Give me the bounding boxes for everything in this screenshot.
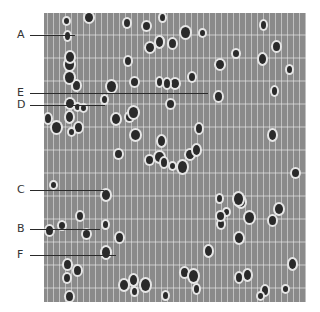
- vessel-pore: [143, 22, 150, 30]
- vessel-pore: [193, 145, 200, 155]
- vessel-pore: [233, 50, 239, 57]
- vessel-pore: [75, 123, 82, 132]
- vessel-pore: [217, 212, 224, 220]
- leader-line-c: [30, 190, 104, 191]
- vessel-pore: [59, 222, 65, 229]
- vessel-pore: [287, 66, 292, 73]
- vessel-pore: [73, 81, 80, 90]
- vessel-pore: [130, 275, 137, 285]
- vessel-pore: [146, 43, 154, 52]
- vessel-pore: [196, 124, 202, 133]
- vessel-pore: [259, 54, 266, 64]
- vessel-pore: [236, 273, 242, 282]
- vessel-pore: [112, 114, 120, 124]
- vessel-pore: [146, 156, 153, 164]
- vessel-pore: [158, 136, 165, 146]
- vessel-pore: [189, 270, 198, 282]
- vessel-pore: [161, 158, 167, 167]
- leader-line-f: [30, 255, 116, 256]
- label-f: F: [17, 249, 23, 260]
- vessel-pore: [258, 293, 263, 299]
- vessel-pore: [261, 21, 266, 29]
- vessel-pore: [103, 221, 108, 228]
- vessel-pore: [66, 99, 74, 108]
- vessel-pore: [217, 195, 222, 202]
- label-a: A: [17, 29, 25, 40]
- vessel-pore: [156, 37, 163, 47]
- vessel-pore: [45, 114, 51, 123]
- vessel-pore: [102, 190, 110, 200]
- vessel-pore: [215, 92, 222, 101]
- vessel-pore: [181, 268, 188, 277]
- vessel-pore: [224, 209, 229, 215]
- vessel-pore: [216, 60, 224, 69]
- vessel-pore: [269, 130, 276, 140]
- vessel-pore: [205, 246, 212, 256]
- vessel-pore: [218, 220, 224, 228]
- vessel-pore: [275, 204, 283, 214]
- vessel-pore: [292, 169, 299, 177]
- vessel-pore: [107, 81, 116, 92]
- vessel-pore: [66, 292, 73, 301]
- leader-line-e: [30, 93, 208, 94]
- vessel-pore: [273, 42, 280, 51]
- vessel-pore: [132, 288, 137, 295]
- vessel-pore: [245, 212, 254, 223]
- vessel-pore: [160, 14, 165, 21]
- vessel-pore: [52, 122, 61, 133]
- vessel-pore: [163, 292, 168, 299]
- vessel-pore: [65, 32, 70, 40]
- vessel-pore: [64, 260, 71, 269]
- vessel-pore: [120, 280, 128, 290]
- vessel-pore: [169, 39, 176, 48]
- vessel-pore: [131, 78, 138, 86]
- leader-line-b: [30, 229, 100, 230]
- vessel-pore: [116, 233, 123, 242]
- vessel-pore: [69, 129, 74, 135]
- vessel-pore: [85, 13, 93, 22]
- vessel-pore: [164, 79, 170, 88]
- vessel-pore: [272, 87, 277, 95]
- vessel-pore: [51, 182, 56, 188]
- leader-line-d: [30, 105, 105, 106]
- vessel-pore: [124, 19, 130, 27]
- label-c: C: [17, 184, 25, 195]
- vessel-pore: [178, 161, 187, 173]
- vessel-pore: [262, 286, 268, 295]
- vessel-pore: [157, 78, 162, 86]
- vessel-pore: [131, 130, 140, 140]
- vessel-pore: [66, 52, 74, 62]
- vessel-pore: [289, 259, 296, 269]
- label-d: D: [17, 99, 25, 110]
- wood-micrograph: [44, 13, 306, 302]
- vessel-pore: [167, 100, 174, 108]
- vessel-pore: [65, 72, 74, 83]
- vessel-pore: [129, 107, 138, 118]
- vessel-pore: [141, 279, 150, 291]
- vessel-pore: [74, 266, 81, 275]
- label-b: B: [17, 223, 25, 234]
- vessel-pore: [200, 30, 205, 36]
- vessel-pore: [64, 18, 69, 24]
- vessel-pore: [125, 57, 131, 65]
- vessel-pore: [244, 270, 251, 280]
- vessel-pore: [189, 73, 195, 81]
- vessel-pore: [269, 216, 276, 225]
- vessel-pore: [171, 79, 179, 88]
- vessel-pore: [115, 150, 122, 158]
- leader-line-a: [30, 35, 75, 36]
- vessel-pore: [283, 286, 288, 292]
- vessel-pore: [77, 212, 83, 220]
- label-e: E: [17, 87, 24, 98]
- vessel-pore: [234, 193, 243, 205]
- vessel-pore: [83, 230, 90, 238]
- vessel-pore: [194, 285, 199, 293]
- vessel-pore: [102, 247, 110, 258]
- vessel-pore: [66, 112, 73, 122]
- vessel-pore: [170, 163, 175, 169]
- vessel-pore: [181, 27, 190, 38]
- vessel-pore: [46, 226, 53, 235]
- vessel-pore: [102, 96, 107, 103]
- vessel-pore: [64, 274, 70, 282]
- vessel-pore: [235, 233, 243, 243]
